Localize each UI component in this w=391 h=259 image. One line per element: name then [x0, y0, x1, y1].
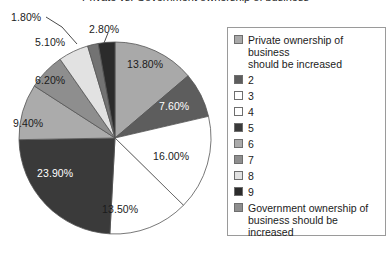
legend-item[interactable]: 6: [234, 138, 380, 150]
slice-value-label: 2.80%: [89, 23, 119, 35]
legend-item-label: 6: [248, 138, 254, 150]
legend-item[interactable]: 7: [234, 154, 380, 166]
slice-value-label: 6.20%: [35, 74, 65, 86]
legend-item[interactable]: 9: [234, 186, 380, 198]
legend-swatch-icon: [234, 35, 243, 44]
legend-item-label: 2: [248, 74, 254, 86]
slice-value-label: 13.80%: [127, 58, 163, 70]
legend-item-label: 9: [248, 186, 254, 198]
legend-item-label: 8: [248, 170, 254, 182]
legend-item[interactable]: 2: [234, 74, 380, 86]
slice-value-label: 1.80%: [11, 11, 41, 23]
pie-slices: [0, 0, 225, 259]
legend-item[interactable]: Private ownership of business should be …: [234, 34, 380, 70]
legend-item-label: Private ownership of business should be …: [248, 34, 380, 70]
legend-item[interactable]: 3: [234, 90, 380, 102]
legend-swatch-icon: [234, 75, 243, 84]
chart-legend: Private ownership of business should be …: [227, 27, 386, 236]
legend-item[interactable]: 4: [234, 106, 380, 118]
pie-slice: [19, 138, 115, 234]
legend-swatch-icon: [234, 203, 243, 212]
slice-value-label: 9.40%: [13, 117, 43, 129]
pie-plot-area: 13.80%7.60%16.00%13.50%23.90%9.40%6.20%5…: [0, 0, 225, 259]
legend-item[interactable]: Government ownership of business should …: [234, 202, 380, 238]
legend-swatch-icon: [234, 171, 243, 180]
legend-swatch-icon: [234, 155, 243, 164]
slice-value-label: 23.90%: [37, 167, 73, 179]
legend-item-label: Government ownership of business should …: [248, 202, 380, 238]
legend-item[interactable]: 5: [234, 122, 380, 134]
slice-value-label: 16.00%: [153, 150, 189, 162]
legend-item-label: 4: [248, 106, 254, 118]
legend-swatch-icon: [234, 91, 243, 100]
legend-swatch-icon: [234, 139, 243, 148]
slice-value-label: 7.60%: [159, 100, 189, 112]
legend-item-label: 5: [248, 122, 254, 134]
pie-chart-figure: Private vs. Government ownership of busi…: [0, 0, 391, 259]
slice-value-label: 13.50%: [102, 203, 138, 215]
legend-swatch-icon: [234, 187, 243, 196]
legend-item[interactable]: 8: [234, 170, 380, 182]
legend-swatch-icon: [234, 123, 243, 132]
slice-value-label: 5.10%: [35, 36, 65, 48]
legend-item-label: 7: [248, 154, 254, 166]
legend-swatch-icon: [234, 107, 243, 116]
legend-item-label: 3: [248, 90, 254, 102]
